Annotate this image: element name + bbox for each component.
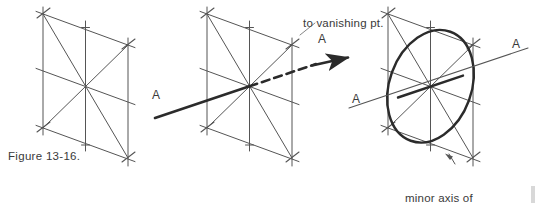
axis-label-a-middle-left: A	[152, 88, 160, 102]
vanishing-point-arrow	[312, 58, 348, 66]
minor-axis-note: minor axis of ellipse aligns with A-A	[405, 167, 474, 206]
figure-caption: Figure 13-16.	[8, 150, 80, 162]
minor-axis-note-line-1: minor axis of	[405, 192, 474, 205]
axis-line-aa-middle	[155, 86, 250, 118]
axis-label-a-right-right: A	[512, 37, 520, 51]
axis-label-a-middle-right: A	[318, 32, 326, 46]
figure-page: Figure 13-16. to vanishing pt. A A A A m…	[0, 0, 542, 206]
axis-line-aa-dashed	[250, 64, 317, 86]
page-edge-artifact	[531, 186, 535, 203]
vanishing-point-label: to vanishing pt.	[303, 17, 384, 29]
axis-label-a-right-left: A	[352, 92, 360, 106]
panel-left-parallelogram	[36, 7, 135, 166]
